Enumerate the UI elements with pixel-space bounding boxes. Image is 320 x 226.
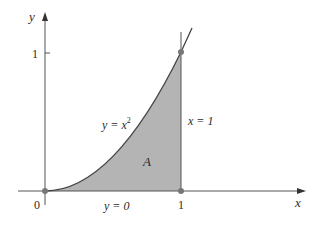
y-axis-label: y xyxy=(27,9,35,24)
y-axis-arrow-icon xyxy=(42,12,48,21)
point-1-1 xyxy=(178,49,184,55)
x-axis-label: x xyxy=(294,195,301,210)
origin-point xyxy=(42,188,48,194)
y-tick-label: 1 xyxy=(32,47,38,61)
bottom-line-label: y = 0 xyxy=(103,199,129,213)
x-tick-label: 1 xyxy=(178,198,184,212)
curve-label: y = x2 xyxy=(101,116,131,132)
point-1-0 xyxy=(178,188,184,194)
region-label: A xyxy=(142,154,151,169)
vertical-line-label: x = 1 xyxy=(187,114,213,128)
x-axis-arrow-icon xyxy=(297,188,306,194)
area-under-parabola-diagram: y 1 0 1 x y = x2 x = 1 y = 0 A xyxy=(0,0,320,226)
origin-label: 0 xyxy=(34,198,40,212)
